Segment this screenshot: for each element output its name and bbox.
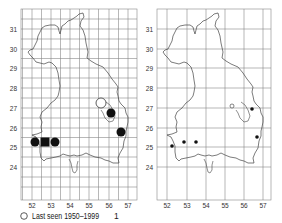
y-tick: 27 [10,105,18,112]
filled-circle-marker [117,128,126,137]
open-circle-marker [96,98,106,108]
x-tick: 53 [183,202,191,209]
y-tick: 30 [10,46,18,53]
filled-circle-marker [170,144,174,148]
map-left: 31 30 29 28 27 26 25 24 52 53 54 55 56 5… [0,0,282,223]
x-tick: 57 [259,202,267,209]
legend-left-rows: Last seen 1950–1999 1 [19,211,144,221]
y-tick: 30 [146,46,154,53]
filled-circle-marker [250,107,254,111]
y-axis-right: 31 30 29 28 27 26 25 24 [146,26,154,171]
y-tick: 31 [146,26,154,33]
open-circle-marker [230,104,234,108]
y-tick: 25 [146,144,154,151]
y-tick: 29 [146,65,154,72]
x-tick: 52 [163,202,171,209]
x-tick: 54 [66,202,74,209]
filled-circle-marker [51,138,60,147]
region-outline-right-inner [204,102,250,173]
grid-left [21,9,137,200]
y-tick: 28 [146,85,154,92]
y-tick: 31 [10,26,18,33]
x-tick: 52 [28,202,36,209]
filled-circle-marker [107,109,116,118]
filled-circle-marker [194,140,198,144]
markers-left [31,98,126,147]
x-tick: 54 [202,202,210,209]
y-tick: 28 [10,85,18,92]
x-axis-right: 52 53 54 55 56 57 [163,202,267,209]
y-tick: 27 [146,105,154,112]
y-tick: 24 [10,164,18,171]
y-axis-left: 31 30 29 28 27 26 25 24 [10,26,18,171]
x-tick: 56 [240,202,248,209]
x-tick: 56 [105,202,113,209]
y-tick: 26 [146,125,154,132]
y-tick: 29 [10,65,18,72]
legend-count: 1 [114,211,119,221]
filled-square-marker [41,138,50,147]
grid-right [157,9,271,200]
y-tick: 25 [10,144,18,151]
x-axis-left: 52 53 54 55 56 57 [28,202,132,209]
x-tick: 53 [47,202,55,209]
filled-circle-marker [31,138,40,147]
y-tick: 26 [10,125,18,132]
legend-label: Last seen 1950–1999 [32,211,99,221]
x-tick: 55 [221,202,229,209]
x-tick: 57 [124,202,132,209]
filled-circle-marker [255,135,259,139]
filled-circle-marker [182,140,186,144]
y-tick: 24 [146,164,154,171]
markers-right [170,104,259,148]
open-circle-icon [19,212,28,221]
x-tick: 55 [85,202,93,209]
legend-item: Last seen 1950–1999 1 [19,211,144,221]
